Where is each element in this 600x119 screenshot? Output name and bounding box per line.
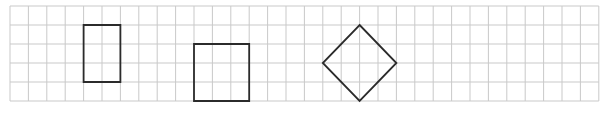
grid-lines [10, 6, 599, 101]
square-shape [194, 44, 249, 101]
grid-diagram [0, 0, 600, 119]
